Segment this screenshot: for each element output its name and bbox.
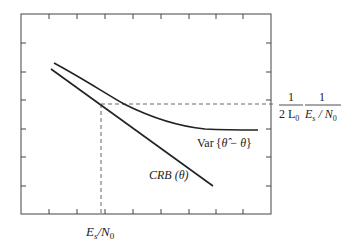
y-marker-label: 1 2 L0 1 Es / N0 xyxy=(279,90,341,123)
x-marker-label: Es/N0 xyxy=(85,224,115,241)
chart-canvas: Var{θ̂ − θ} CRB (θ) Es/N0 1 2 L0 1 Es / … xyxy=(0,0,347,250)
crb-curve-label: CRB (θ) xyxy=(149,168,189,182)
crb-curve xyxy=(51,69,213,186)
svg-text:2 L0: 2 L0 xyxy=(279,107,299,123)
var-curve xyxy=(54,63,258,130)
svg-text:Es / N0: Es / N0 xyxy=(304,107,337,123)
svg-text:1: 1 xyxy=(319,90,325,104)
svg-text:1: 1 xyxy=(288,90,294,104)
var-curve-label: Var{θ̂ − θ} xyxy=(197,136,252,150)
